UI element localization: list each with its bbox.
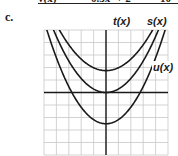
label-u: u(x) xyxy=(152,61,174,73)
label-t: t(x) xyxy=(112,15,131,27)
label-s: s(x) xyxy=(146,15,168,27)
